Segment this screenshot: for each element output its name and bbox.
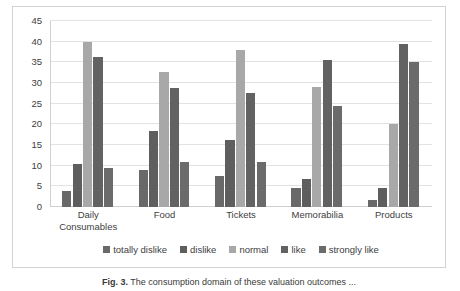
x-axis: Daily ConsumablesFoodTicketsMemorabiliaP…	[50, 209, 432, 237]
chart-frame: 454035302520151050 Daily ConsumablesFood…	[12, 6, 446, 268]
legend-item[interactable]: normal	[229, 245, 268, 255]
figure-caption-clip: Fig. 3. The consumption domain of these …	[12, 277, 446, 291]
y-tick-label-45: 45	[31, 16, 42, 26]
bar	[180, 162, 189, 207]
bar-group	[279, 21, 355, 207]
chart-legend: totally dislikedislikenormallikestrongly…	[50, 245, 432, 255]
legend-item[interactable]: like	[281, 245, 305, 255]
legend-swatch-icon	[229, 246, 236, 253]
bar	[159, 72, 168, 207]
legend-label: totally dislike	[113, 245, 167, 255]
legend-item[interactable]: strongly like	[319, 245, 379, 255]
y-tick-label-15: 15	[31, 140, 42, 150]
figure-container: 454035302520151050 Daily ConsumablesFood…	[0, 0, 460, 291]
y-tick-label-40: 40	[31, 37, 42, 47]
y-tick-label-20: 20	[31, 120, 42, 130]
bar	[368, 200, 377, 207]
y-tick-label-30: 30	[31, 78, 42, 88]
bar	[246, 93, 255, 207]
legend-label: like	[291, 245, 305, 255]
bar	[149, 131, 158, 207]
bar	[170, 88, 179, 207]
bars-layer	[50, 21, 432, 207]
bar	[83, 42, 92, 207]
bar	[389, 124, 398, 207]
bar-group	[126, 21, 202, 207]
bar	[323, 60, 332, 207]
y-tick-label-5: 5	[37, 182, 42, 192]
x-tick-label: Tickets	[203, 209, 279, 221]
caption-text: The consumption domain of these valuatio…	[130, 277, 356, 287]
legend-swatch-icon	[319, 246, 326, 253]
legend-swatch-icon	[180, 246, 187, 253]
legend-label: strongly like	[329, 245, 379, 255]
bar	[291, 188, 300, 207]
legend-item[interactable]: totally dislike	[103, 245, 167, 255]
y-tick-label-35: 35	[31, 58, 42, 68]
bar-group	[356, 21, 432, 207]
legend-label: dislike	[190, 245, 216, 255]
x-tick-label: Daily Consumables	[50, 209, 126, 232]
y-tick-label-10: 10	[31, 161, 42, 171]
figure-caption: Fig. 3. The consumption domain of these …	[12, 277, 446, 288]
legend-swatch-icon	[103, 246, 110, 253]
plot-area	[50, 21, 432, 207]
legend-label: normal	[239, 245, 268, 255]
bar	[225, 140, 234, 207]
bar	[257, 162, 266, 207]
x-tick-label: Memorabilia	[279, 209, 355, 221]
x-tick-label: Products	[356, 209, 432, 221]
bar-group	[203, 21, 279, 207]
bar-group	[50, 21, 126, 207]
bar	[104, 168, 113, 207]
bar	[93, 57, 102, 207]
x-tick-label: Food	[126, 209, 202, 221]
legend-item[interactable]: dislike	[180, 245, 216, 255]
caption-label: Fig. 3.	[102, 277, 128, 287]
y-tick-label-0: 0	[37, 202, 42, 212]
legend-swatch-icon	[281, 246, 288, 253]
bar	[333, 106, 342, 207]
bar	[312, 87, 321, 207]
bar	[236, 50, 245, 207]
bar	[399, 44, 408, 207]
y-axis: 454035302520151050	[13, 21, 47, 207]
bar	[409, 62, 418, 207]
bar	[139, 170, 148, 207]
bar	[73, 164, 82, 207]
bar	[62, 191, 71, 207]
bar	[302, 179, 311, 207]
bar	[215, 176, 224, 207]
y-tick-label-25: 25	[31, 99, 42, 109]
bar	[378, 188, 387, 207]
